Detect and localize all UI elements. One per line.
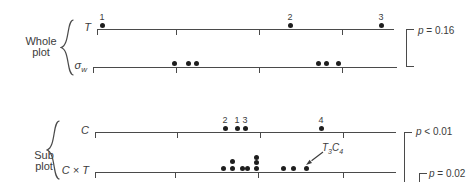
data-point	[304, 166, 309, 171]
point-label: 2	[284, 12, 296, 22]
data-point	[379, 23, 384, 28]
row-label-text: C	[81, 124, 89, 136]
data-point	[316, 61, 321, 66]
bracket-arm-top	[406, 29, 414, 30]
p-value-variable: p	[416, 126, 422, 137]
data-point	[288, 23, 293, 28]
row-label-0: T	[49, 21, 91, 33]
bracket-arm-top	[404, 132, 412, 133]
annotation-t3c4: T3C4	[322, 142, 343, 155]
bracket-vertical	[419, 173, 420, 182]
axis-line-3	[95, 172, 396, 173]
row-label-text: T	[84, 21, 91, 33]
p-value-label: p = 0.16	[418, 25, 454, 36]
point-label: 1	[96, 12, 108, 22]
row-label-1: σw	[45, 59, 87, 74]
p-value-label: p = 0.02	[429, 168, 465, 179]
point-label: 2	[219, 115, 231, 125]
axis-tick	[95, 173, 96, 178]
data-point	[324, 61, 329, 66]
axis-line-1	[93, 67, 397, 68]
data-point	[291, 166, 296, 171]
data-point	[254, 166, 259, 171]
data-point	[319, 126, 324, 131]
axis-tick	[175, 173, 176, 178]
axis-tick	[97, 30, 98, 35]
row-label-3: C × T	[47, 164, 89, 176]
axis-tick	[177, 133, 178, 138]
bracket-arm-top	[419, 173, 427, 174]
data-point	[336, 61, 341, 66]
row-label-subscript: w	[81, 65, 87, 74]
figure: Whole plot Sub plot T3C4 T123σwC2134C × …	[0, 0, 475, 182]
data-point	[254, 155, 259, 160]
axis-tick	[95, 133, 96, 138]
axis-tick	[258, 173, 259, 178]
axis-tick	[260, 133, 261, 138]
axis-tick	[93, 68, 94, 73]
point-label: 4	[315, 115, 327, 125]
data-point	[281, 166, 286, 171]
p-value-variable: p	[429, 168, 435, 179]
axis-tick	[343, 173, 344, 178]
data-point	[186, 61, 191, 66]
bracket-arm-bottom	[406, 66, 414, 67]
data-point	[240, 166, 245, 171]
axis-tick	[342, 30, 343, 35]
bracket-vertical	[404, 132, 405, 182]
data-point	[230, 166, 235, 171]
axis-line-2	[95, 132, 396, 133]
data-point	[221, 166, 226, 171]
point-label: 3	[375, 12, 387, 22]
p-value-label: p < 0.01	[416, 126, 452, 137]
row-label-2: C	[47, 124, 89, 136]
data-point	[243, 126, 248, 131]
axis-tick	[176, 30, 177, 35]
axis-tick	[343, 133, 344, 138]
data-point	[245, 166, 250, 171]
axis-tick	[176, 68, 177, 73]
data-point	[235, 126, 240, 131]
axis-tick	[342, 68, 343, 73]
axis-tick	[259, 30, 260, 35]
group-label-whole-plot: Whole plot	[20, 36, 62, 58]
bracket-vertical	[406, 29, 407, 66]
data-point	[100, 23, 105, 28]
p-value-variable: p	[418, 25, 424, 36]
data-point	[194, 61, 199, 66]
data-point	[254, 160, 259, 165]
axis-line-0	[97, 29, 394, 30]
axis-tick	[259, 68, 260, 73]
data-point	[172, 61, 177, 66]
data-point	[230, 159, 235, 164]
data-point	[223, 126, 228, 131]
row-label-text: C × T	[62, 164, 89, 176]
annotation-t3c4-sub: 4	[339, 148, 343, 155]
point-label: 3	[239, 115, 251, 125]
